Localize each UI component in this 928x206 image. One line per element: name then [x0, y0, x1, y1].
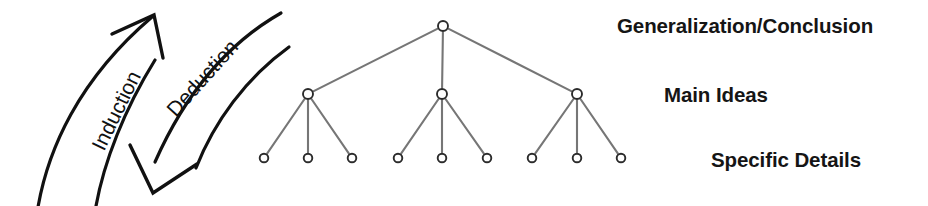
tree-node-specific-detail [304, 154, 313, 163]
tree-node-specific-detail [438, 154, 447, 163]
tree-edge [401, 99, 438, 153]
tree-node-specific-detail [483, 154, 492, 163]
tree-node-generalization [438, 21, 448, 31]
tree-node-specific-detail [573, 154, 582, 163]
tree-node-main-idea [437, 89, 447, 99]
tier-label-generalization: Generalization/Conclusion [617, 14, 873, 38]
tree-edge [267, 99, 304, 153]
deduction-outer-curve [155, 13, 281, 162]
tree-node-specific-detail [528, 154, 537, 163]
deduction-arrowhead-icon [130, 145, 197, 193]
tree-node-specific-detail [348, 154, 357, 163]
tier-label-specific-details: Specific Details [711, 148, 861, 172]
induction-arrowhead-icon [112, 15, 163, 58]
tree-node-specific-detail [260, 154, 269, 163]
diagram-canvas: Induction Deduction Generalization/Concl… [0, 0, 928, 206]
tree-node-main-idea [572, 89, 582, 99]
tree-edge [449, 29, 572, 91]
tree-node-specific-detail [617, 154, 626, 163]
tier-label-main-ideas: Main Ideas [664, 83, 768, 107]
tree-edge [442, 32, 443, 87]
tree-edge [312, 99, 349, 153]
tree-edge [581, 99, 618, 153]
tree-node-main-idea [303, 89, 313, 99]
tree-edge [535, 99, 573, 153]
induction-outer-curve [38, 17, 152, 206]
deduction-arrow [130, 13, 289, 193]
tree-edge [446, 99, 484, 153]
tree-node-specific-detail [394, 154, 403, 163]
tree-edge [314, 29, 438, 91]
